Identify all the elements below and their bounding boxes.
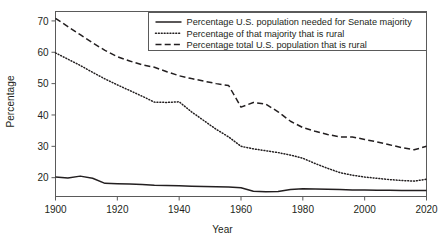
series-line (56, 176, 427, 192)
y-axis-tick-labels: 203040506070 (37, 16, 49, 184)
chart-legend: Percentage U.S. population needed for Se… (149, 13, 427, 51)
x-axis-tickmarks (56, 197, 427, 201)
legend-label: Percentage U.S. population needed for Se… (187, 17, 413, 27)
x-axis-tick-labels: 1900192019401960198020002020 (44, 204, 438, 215)
legend-label: Percentage of that majority that is rura… (187, 29, 345, 39)
y-tick-label: 40 (37, 110, 49, 121)
x-tick-label: 2000 (354, 204, 377, 215)
chart-canvas: 203040506070 190019201940196019802000202… (0, 0, 445, 242)
line-chart: 203040506070 190019201940196019802000202… (0, 0, 445, 242)
y-tick-label: 50 (37, 78, 49, 89)
legend-label: Percentage total U.S. population that is… (187, 40, 367, 50)
y-axis-tickmarks (52, 21, 56, 178)
y-tick-label: 60 (37, 47, 49, 58)
y-axis-title: Percentage (5, 70, 16, 134)
x-axis-title: Year (0, 224, 445, 235)
series-line (56, 53, 427, 181)
y-tick-label: 20 (37, 172, 49, 183)
x-tick-label: 1900 (44, 204, 67, 215)
x-tick-label: 1920 (106, 204, 129, 215)
y-tick-label: 30 (37, 141, 49, 152)
x-tick-label: 1960 (230, 204, 253, 215)
x-tick-label: 2020 (415, 204, 438, 215)
y-tick-label: 70 (37, 16, 49, 27)
x-tick-label: 1940 (168, 204, 191, 215)
x-tick-label: 1980 (292, 204, 315, 215)
